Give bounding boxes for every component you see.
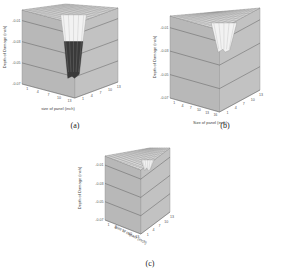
- z-tick-label: -0.01: [12, 19, 20, 23]
- depth-tick-label: 13: [259, 93, 263, 97]
- x-tick-label: 13: [68, 99, 72, 103]
- depth-tick-label: 1: [227, 111, 229, 115]
- x-axis-label: size of panel (inch): [41, 106, 75, 111]
- z-tick-label: -0.07: [160, 96, 168, 100]
- depth-tick-label: 7: [99, 91, 101, 95]
- chart-panel-c: -0.01-0.03-0.05-0.0714710131471013Depth …: [75, 136, 225, 273]
- z-tick-label: -0.07: [95, 218, 103, 222]
- figure-caption: (c): [146, 259, 155, 268]
- y-axis-label: Depth of Damage (inch): [152, 35, 157, 78]
- depth-tick-label: 1: [82, 97, 84, 101]
- depth-tick-label: 13: [117, 85, 121, 89]
- x-tick-label: 10: [57, 96, 61, 100]
- figure-caption: (a): [71, 121, 80, 130]
- surface-chart-c: -0.01-0.03-0.05-0.0714710131471013Depth …: [75, 136, 225, 273]
- depth-tick-label: 7: [243, 102, 245, 106]
- left-face: [170, 16, 220, 112]
- z-tick-label: -0.05: [95, 200, 103, 204]
- depth-tick-label: 4: [153, 228, 155, 232]
- depth-tick-label: 10: [108, 88, 112, 92]
- z-tick-label: -0.01: [160, 26, 168, 30]
- surface-chart-b: -0.01-0.03-0.05-0.071471013161471013Dept…: [150, 0, 300, 136]
- depth-tick-label: 10: [164, 220, 168, 224]
- z-tick-label: -0.05: [160, 73, 168, 77]
- chart-panel-b: -0.01-0.03-0.05-0.071471013161471013Dept…: [150, 0, 300, 136]
- z-tick-label: -0.03: [160, 49, 168, 53]
- figure-caption: (b): [220, 121, 230, 130]
- x-tick-label: 13: [205, 111, 209, 115]
- depth-tick-label: 4: [235, 106, 237, 110]
- depth-tick-label: 1: [147, 233, 149, 237]
- x-tick-label: 4: [37, 90, 39, 94]
- x-tick-label: 16: [213, 113, 217, 117]
- y-axis-label: Depth of Damage (inch): [2, 25, 7, 68]
- depth-tick-label: 4: [91, 94, 93, 98]
- z-tick-label: -0.03: [95, 182, 103, 186]
- x-tick-label: 1: [26, 87, 28, 91]
- x-tick-label: 1: [173, 101, 175, 105]
- x-tick-label: 1: [108, 223, 110, 227]
- surface-chart-a: -0.01-0.03-0.05-0.0714710131471013Depth …: [0, 0, 150, 136]
- x-tick-label: 7: [47, 93, 49, 97]
- z-tick-label: -0.05: [12, 61, 20, 65]
- depth-tick-label: 13: [170, 215, 174, 219]
- x-tick-label: 10: [197, 108, 201, 112]
- x-tick-label: 4: [181, 104, 183, 108]
- y-axis-label: Depth of Damage (inch): [77, 166, 82, 209]
- z-tick-label: -0.01: [95, 163, 103, 167]
- chart-panel-a: -0.01-0.03-0.05-0.0714710131471013Depth …: [0, 0, 150, 136]
- depth-tick-label: 10: [251, 98, 255, 102]
- z-tick-label: -0.07: [12, 82, 20, 86]
- z-tick-label: -0.03: [12, 40, 20, 44]
- x-tick-label: 7: [190, 106, 192, 110]
- depth-tick-label: 7: [158, 224, 160, 228]
